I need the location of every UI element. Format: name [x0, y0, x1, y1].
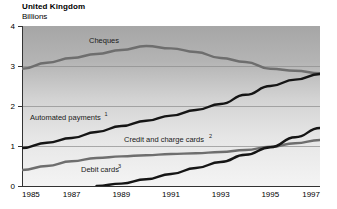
line-chart-plot: 4 3 2 1 0 1985 1987 1989 1991 1993 1995 …: [0, 0, 337, 209]
y-axis: [18, 26, 22, 186]
y-tick-2: 2: [11, 102, 16, 111]
x-tick-1993: 1993: [212, 190, 230, 199]
y-tick-3: 3: [11, 62, 16, 71]
x-tick-1985: 1985: [22, 190, 40, 199]
y-tick-1: 1: [11, 142, 16, 151]
x-tick-1987: 1987: [63, 190, 81, 199]
y-tick-4: 4: [11, 22, 16, 31]
series-label-cheques: Cheques: [89, 36, 119, 45]
x-tick-1997: 1997: [302, 190, 320, 199]
series-label-automated-payments: Automated payments: [30, 113, 101, 122]
series-label-automated-payments-footnote: 1: [105, 111, 108, 117]
x-tick-1989: 1989: [112, 190, 130, 199]
y-tick-0: 0: [11, 182, 16, 191]
chart-figure: United Kingdom Billions: [0, 0, 337, 209]
x-tick-1995: 1995: [261, 190, 279, 199]
series-label-debit-cards: Debit cards: [81, 165, 119, 174]
series-label-debit-cards-footnote: 3: [118, 163, 121, 169]
x-axis-tick-labels: 1985 1987 1989 1991 1993 1995 1997: [22, 190, 321, 199]
x-tick-1991: 1991: [162, 190, 180, 199]
series-label-credit-and-charge-cards: Credit and charge cards: [124, 135, 204, 144]
y-axis-tick-labels: 4 3 2 1 0: [11, 22, 16, 191]
series-label-credit-and-charge-cards-footnote: 2: [209, 133, 212, 139]
